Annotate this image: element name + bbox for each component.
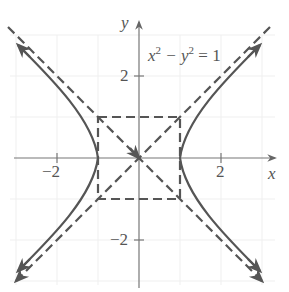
tick-label-x-2: 2: [216, 162, 225, 182]
tick-label-y-neg2: −2: [110, 230, 128, 250]
tick-label-y-2: 2: [120, 66, 129, 86]
y-axis-label: y: [121, 13, 129, 33]
x-axis-label: x: [268, 164, 276, 184]
equation-label: x2 − y2 = 1: [148, 44, 221, 66]
origin-arrow: [130, 148, 139, 158]
tick-label-x-neg2: −2: [42, 162, 60, 182]
hyperbola-figure: y x −2 2 2 −2 x2 − y2 = 1: [0, 0, 289, 292]
plot-area: [0, 0, 289, 292]
